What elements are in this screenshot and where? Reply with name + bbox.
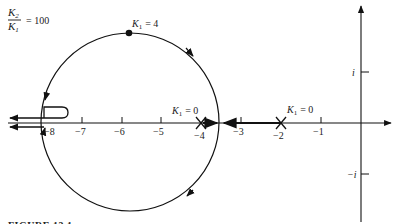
real-axis-tick-labels: −8 −7 −6 −5 −4 −3 −2 −1 [44, 126, 324, 141]
svg-text:−1: −1 [313, 126, 324, 137]
svg-text:−7: −7 [75, 126, 86, 137]
ratio-label: K2 K1 = 100 [7, 6, 49, 34]
svg-text:−4: −4 [194, 130, 205, 141]
svg-text:K1: K1 [7, 20, 19, 34]
svg-text:−2: −2 [273, 130, 284, 141]
imag-tick-label-plus-i: i [352, 67, 355, 78]
root-locus-circle [41, 33, 219, 211]
figure-caption: FIGURE 13.1 [8, 220, 72, 224]
svg-text:−8: −8 [44, 126, 55, 137]
u-loop-branch [10, 107, 68, 118]
svg-text:−6: −6 [114, 126, 125, 137]
svg-text:−5: −5 [153, 126, 164, 137]
k1-equals-0-label-minus4: K1= 0 [171, 105, 198, 118]
root-locus-diagram: K2 K1 = 100 K1= 4 K1= 0 K1= 0 −8 −7 −6 −… [0, 0, 399, 224]
imag-tick-label-minus-i: −i [347, 169, 357, 180]
arrow-lower-right-icon [187, 190, 193, 196]
k1-equals-4-point [126, 30, 133, 37]
svg-text:K2: K2 [7, 6, 19, 20]
k1-equals-0-label-minus2: K1= 0 [286, 104, 313, 117]
arrow-upper-right-icon [186, 48, 193, 56]
svg-text:−3: −3 [233, 126, 244, 137]
svg-text:= 100: = 100 [26, 15, 49, 26]
k1-equals-4-label: K1= 4 [131, 18, 158, 31]
